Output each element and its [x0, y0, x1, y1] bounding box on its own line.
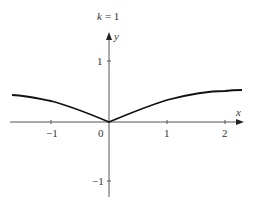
- xtick-label-2: 2: [222, 127, 228, 139]
- xtick-label-1: 1: [164, 127, 170, 139]
- chart-title: k= 1: [97, 10, 119, 22]
- curve-line: [12, 90, 242, 122]
- xtick-label-0: 0: [98, 127, 104, 139]
- xtick-label-neg1: −1: [46, 127, 58, 139]
- x-axis-label: x: [235, 106, 241, 118]
- ytick-label-neg1: −1: [92, 175, 104, 187]
- ytick-label-1: 1: [97, 55, 103, 67]
- x-axis-arrow-icon: [236, 119, 244, 125]
- chart: −1 0 1 2 1 −1 x y k= 1: [0, 0, 255, 209]
- y-axis-label: y: [113, 30, 119, 42]
- y-axis-arrow-icon: [106, 32, 112, 40]
